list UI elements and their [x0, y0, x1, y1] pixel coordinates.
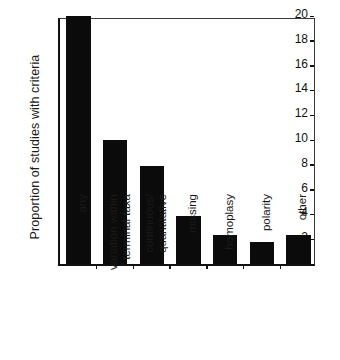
x-axis-category-label: homoplasy [223, 194, 236, 274]
x-axis-tick-mark [243, 264, 245, 269]
x-axis-tick-mark [96, 264, 98, 269]
x-axis-category-label-line: quantitative [156, 194, 169, 274]
x-axis-category-label-line: variation within [107, 194, 120, 274]
x-axis-category-label-line: other [296, 194, 309, 274]
y-axis-title: Proportion of studies with criteria [28, 17, 42, 277]
bar-chart-figure: Proportion of studies with criteria 0246… [0, 0, 340, 360]
x-axis-category-label: variation withinterminal taxa [107, 194, 132, 274]
x-axis-category-label-line: homoplasy [223, 194, 236, 274]
x-axis-category-label: any [76, 194, 89, 274]
x-axis-category-label-line: any [76, 194, 89, 274]
x-axis-category-label: continuous/quantitative [143, 194, 168, 274]
x-axis-category-label: other [296, 194, 309, 274]
x-axis-tick-mark [280, 264, 282, 269]
x-axis-category-label: polarity [260, 194, 273, 274]
y-axis-tick-mark [310, 16, 314, 18]
x-axis-category-label-line: terminal taxa [119, 194, 132, 274]
x-axis-category-label-line: missing [186, 194, 199, 274]
x-axis-tick-mark [133, 264, 135, 269]
x-axis-tick-mark [169, 264, 171, 269]
x-axis-category-label: missing [186, 194, 199, 274]
x-axis-category-label-line: continuous/ [143, 194, 156, 274]
x-axis-category-label-line: polarity [260, 194, 273, 274]
x-axis-tick-mark [206, 264, 208, 269]
